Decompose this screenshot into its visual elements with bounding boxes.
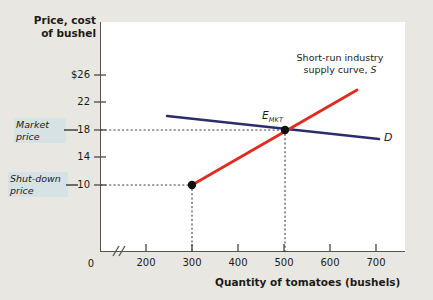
supply-curve [192,90,357,185]
x-axis-ticks [146,244,376,252]
shut-down-point-marker [188,181,196,189]
chart-vector-layer [0,0,433,300]
economics-chart-figure: Price, cost of bushel Quantity of tomato… [0,0,433,300]
equilibrium-point-marker [281,126,289,134]
y-axis-ticks [94,75,106,185]
label-leader-lines [64,130,78,185]
demand-curve [167,116,379,139]
x-axis-break-icon [113,246,125,256]
